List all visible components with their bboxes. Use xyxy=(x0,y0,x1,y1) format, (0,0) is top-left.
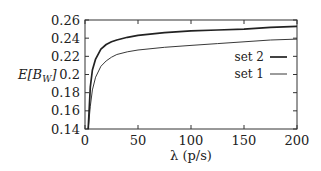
y-tick-label: 0.24 xyxy=(51,31,80,46)
y-tick-label: 0.18 xyxy=(51,85,80,100)
y-tick-label: 0.26 xyxy=(51,13,80,28)
data-series xyxy=(88,26,297,129)
x-tick-label: 200 xyxy=(285,133,310,148)
plot-frame xyxy=(85,20,297,129)
legend-label: set 1 xyxy=(234,67,264,81)
plot-border xyxy=(85,20,297,129)
line-chart: 0501001502000.140.160.180.20.220.240.26 … xyxy=(0,0,321,171)
legend-label: set 2 xyxy=(234,50,264,64)
series-line-set-2 xyxy=(88,26,297,129)
y-tick-label: 0.22 xyxy=(51,49,80,64)
axis-ticks: 0501001502000.140.160.180.20.220.240.26 xyxy=(51,13,309,149)
x-axis-label: λ (p/s) xyxy=(170,148,212,163)
legend: set 2set 1 xyxy=(234,50,287,81)
y-tick-label: 0.14 xyxy=(51,122,80,137)
y-axis-label: E[BW] xyxy=(17,67,57,84)
series-line-set-1 xyxy=(88,39,297,129)
y-tick-label: 0.2 xyxy=(59,67,80,82)
x-tick-label: 100 xyxy=(179,133,204,148)
x-tick-label: 50 xyxy=(130,133,147,148)
x-tick-label: 150 xyxy=(232,133,257,148)
y-tick-label: 0.16 xyxy=(51,103,80,118)
x-tick-label: 0 xyxy=(81,133,89,148)
